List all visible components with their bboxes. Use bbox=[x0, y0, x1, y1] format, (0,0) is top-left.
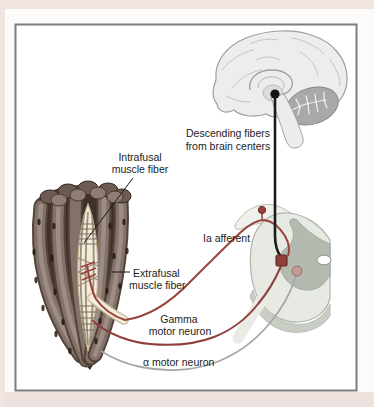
label-extrafusal-line2: muscle fiber bbox=[129, 279, 186, 291]
figure-page: Descending fibers from brain centers Int… bbox=[0, 0, 374, 407]
gamma-cell-body bbox=[276, 255, 287, 266]
label-gamma-line2: motor neuron bbox=[149, 325, 212, 337]
anatomy-diagram: Descending fibers from brain centers Int… bbox=[0, 0, 374, 407]
label-intrafusal-line1: Intrafusal bbox=[118, 151, 161, 163]
label-ia-afferent: Ia afferent bbox=[203, 232, 250, 244]
label-descending-fibers-line1: Descending fibers bbox=[186, 127, 270, 139]
label-alpha-motor-neuron: α motor neuron bbox=[143, 356, 215, 368]
label-extrafusal-line1: Extrafusal bbox=[133, 267, 180, 279]
brain-center-dot bbox=[270, 89, 279, 98]
label-gamma-line1: Gamma bbox=[160, 313, 198, 325]
ganglion-cell-body bbox=[258, 206, 265, 213]
alpha-cell-body bbox=[292, 266, 302, 276]
label-descending-fibers-line2: from brain centers bbox=[186, 140, 271, 152]
central-canal bbox=[317, 255, 331, 265]
label-intrafusal-line2: muscle fiber bbox=[112, 163, 169, 175]
